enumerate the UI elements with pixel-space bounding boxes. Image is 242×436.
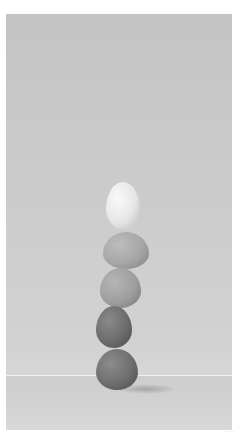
egg-stack-photo <box>6 14 232 430</box>
egg-middle <box>100 268 141 308</box>
egg-second <box>103 232 149 269</box>
egg-top-white <box>106 182 140 229</box>
egg-fourth <box>96 306 132 348</box>
egg-bottom <box>96 349 138 390</box>
photo-caption: ····· ··· <box>223 430 234 434</box>
